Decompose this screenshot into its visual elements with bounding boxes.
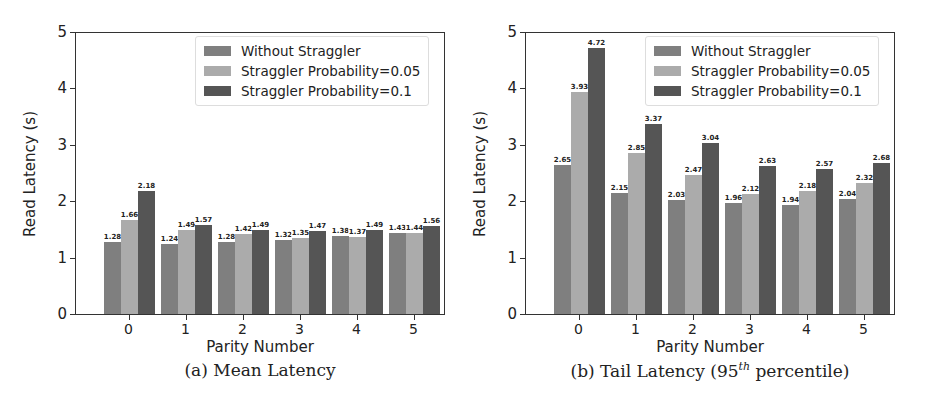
legend-label: Without Straggler [241, 43, 360, 59]
bar [839, 199, 856, 314]
bar [406, 233, 423, 314]
x-tick-mark [579, 315, 580, 320]
bar-value-label: 2.18 [798, 182, 817, 190]
bar-value-label: 1.57 [194, 216, 213, 224]
legend: Without StragglerStraggler Probability=0… [195, 36, 429, 106]
bar [121, 220, 138, 314]
bar [423, 226, 440, 314]
legend-swatch-icon [204, 86, 231, 96]
legend-item: Straggler Probability=0.05 [654, 61, 870, 81]
y-tick-label: 5 [497, 24, 517, 40]
y-tick-label: 0 [497, 306, 517, 322]
bar [349, 237, 366, 314]
bar-value-label: 1.28 [217, 233, 236, 241]
bar-value-label: 1.94 [781, 196, 800, 204]
y-tick-label: 1 [47, 250, 67, 266]
legend-label: Straggler Probability=0.1 [241, 83, 412, 99]
bar [104, 242, 121, 314]
y-tick-mark [520, 145, 525, 146]
x-tick-mark [129, 315, 130, 320]
bar-value-label: 2.03 [667, 191, 686, 199]
y-tick-label: 4 [47, 80, 67, 96]
legend-swatch-icon [204, 66, 231, 76]
bar [759, 166, 776, 314]
legend-label: Straggler Probability=0.05 [241, 63, 420, 79]
bar [782, 205, 799, 314]
bar [178, 230, 195, 314]
x-tick-label: 3 [295, 321, 304, 337]
bar-value-label: 1.49 [365, 221, 384, 229]
bar-value-label: 3.37 [644, 115, 663, 123]
bar [816, 169, 833, 314]
legend-item: Straggler Probability=0.1 [204, 81, 420, 101]
legend-swatch-icon [654, 66, 681, 76]
bar [332, 236, 349, 314]
bar [856, 183, 873, 314]
x-tick-mark [186, 315, 187, 320]
legend-item: Straggler Probability=0.1 [654, 81, 870, 101]
bar [628, 153, 645, 314]
bar-value-label: 2.04 [838, 190, 857, 198]
x-tick-mark [807, 315, 808, 320]
mean-latency-panel: 1.281.662.181.241.491.571.281.421.491.32… [0, 0, 465, 412]
bar-value-label: 2.12 [741, 185, 760, 193]
y-tick-mark [70, 201, 75, 202]
tail-latency-panel: 2.653.934.722.152.853.372.032.473.041.96… [450, 0, 915, 412]
bar-value-label: 1.56 [422, 217, 441, 225]
y-tick-label: 5 [47, 24, 67, 40]
bar [685, 175, 702, 314]
x-tick-mark [414, 315, 415, 320]
legend-item: Without Straggler [654, 41, 870, 61]
y-tick-mark [70, 32, 75, 33]
y-tick-mark [70, 258, 75, 259]
y-tick-mark [520, 258, 525, 259]
y-tick-label: 2 [497, 193, 517, 209]
bar [554, 165, 571, 314]
x-tick-label: 1 [181, 321, 190, 337]
y-tick-label: 1 [497, 250, 517, 266]
bar [235, 234, 252, 314]
y-axis-label: Read Latency (s) [21, 104, 39, 244]
bar [275, 240, 292, 314]
y-tick-label: 3 [497, 137, 517, 153]
bar [742, 194, 759, 314]
bar [571, 92, 588, 314]
bar-value-label: 4.72 [587, 39, 606, 47]
x-tick-label: 5 [409, 321, 418, 337]
bar-value-label: 1.49 [251, 221, 270, 229]
legend-swatch-icon [204, 46, 231, 56]
x-tick-mark [864, 315, 865, 320]
bar-value-label: 2.63 [758, 157, 777, 165]
bar-value-label: 2.47 [684, 166, 703, 174]
bar [668, 200, 685, 314]
x-tick-mark [357, 315, 358, 320]
bar [645, 124, 662, 314]
y-tick-mark [520, 314, 525, 315]
y-tick-mark [520, 32, 525, 33]
bar-value-label: 2.18 [137, 182, 156, 190]
y-tick-label: 4 [497, 80, 517, 96]
bar [389, 233, 406, 314]
bar [702, 143, 719, 314]
bar-value-label: 1.96 [724, 194, 743, 202]
x-tick-label: 2 [238, 321, 247, 337]
bar [252, 230, 269, 314]
bar [138, 191, 155, 314]
x-tick-mark [750, 315, 751, 320]
x-tick-label: 1 [631, 321, 640, 337]
y-tick-mark [70, 314, 75, 315]
bar-value-label: 2.32 [855, 174, 874, 182]
bar-value-label: 1.66 [120, 211, 139, 219]
bar [195, 225, 212, 314]
x-tick-label: 4 [802, 321, 811, 337]
bar-value-label: 3.93 [570, 83, 589, 91]
x-tick-mark [636, 315, 637, 320]
bar-value-label: 2.57 [815, 160, 834, 168]
x-tick-mark [693, 315, 694, 320]
y-tick-label: 3 [47, 137, 67, 153]
bar-value-label: 1.24 [160, 235, 179, 243]
legend-item: Without Straggler [204, 41, 420, 61]
y-tick-mark [520, 88, 525, 89]
bar [161, 244, 178, 314]
x-tick-label: 3 [745, 321, 754, 337]
